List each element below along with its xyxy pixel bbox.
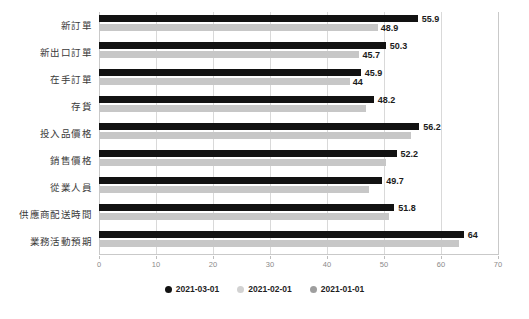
- bar-group: 業務活動預期64: [99, 228, 498, 255]
- bar-2021-03-01: 45.9: [99, 69, 361, 76]
- legend-swatch-icon: [310, 286, 317, 293]
- x-tick-label: 60: [437, 261, 445, 269]
- bar-value-label: 56.2: [423, 122, 441, 131]
- bar-fill: [99, 177, 382, 184]
- legend-item[interactable]: 2021-03-01: [165, 285, 219, 294]
- bar-2021-03-01: 48.2: [99, 96, 374, 103]
- bar-2021-03-01: 52.2: [99, 150, 397, 157]
- bar-fill: [99, 51, 359, 58]
- legend-item[interactable]: 2021-01-01: [310, 285, 364, 294]
- bar-fill: [99, 69, 361, 76]
- x-tick-label: 50: [380, 261, 388, 269]
- x-tick: [213, 256, 214, 259]
- category-label: 存貨: [71, 102, 92, 112]
- bar-2021-02-01: [99, 159, 386, 166]
- bar-2021-02-01: 45.7: [99, 51, 359, 58]
- category-label: 投入品價格: [40, 129, 92, 139]
- bar-2021-03-01: 55.9: [99, 15, 418, 22]
- bar-value-label: 55.9: [422, 14, 440, 23]
- bar-2021-03-01: 51.8: [99, 204, 394, 211]
- category-label: 銷售價格: [50, 156, 92, 166]
- category-label: 新出口訂單: [40, 48, 92, 58]
- bar-2021-02-01: 44: [99, 78, 350, 85]
- bar-group: 存貨48.2: [99, 93, 498, 120]
- bar-fill: [99, 132, 411, 139]
- category-label: 供應商配送時間: [19, 210, 92, 220]
- x-tick: [327, 256, 328, 259]
- bar-fill: [99, 42, 386, 49]
- bar-fill: [99, 24, 378, 31]
- bar-value-label: 51.8: [398, 203, 416, 212]
- bar-group: 新訂單55.948.9: [99, 12, 498, 39]
- bar-fill: [99, 150, 397, 157]
- legend-swatch-icon: [165, 286, 172, 293]
- bar-value-label: 49.7: [386, 176, 404, 185]
- bar-2021-02-01: [99, 213, 389, 220]
- bar-group: 供應商配送時間51.8: [99, 201, 498, 228]
- x-tick: [498, 256, 499, 259]
- bar-2021-03-01: 56.2: [99, 123, 419, 130]
- bar-fill: [99, 204, 394, 211]
- bar-fill: [99, 159, 386, 166]
- x-tick-label: 30: [266, 261, 274, 269]
- x-tick-label: 20: [209, 261, 217, 269]
- x-tick-label: 70: [494, 261, 502, 269]
- bar-fill: [99, 240, 459, 247]
- gridline-70: [498, 12, 499, 255]
- bar-2021-02-01: [99, 105, 366, 112]
- bar-fill: [99, 213, 389, 220]
- x-tick: [441, 256, 442, 259]
- legend-label: 2021-02-01: [248, 285, 291, 294]
- x-tick-label: 10: [152, 261, 160, 269]
- bar-group: 新出口訂單50.345.7: [99, 39, 498, 66]
- plot-area: 新訂單55.948.9新出口訂單50.345.7在手訂單45.944存貨48.2…: [99, 12, 498, 255]
- category-label: 業務活動預期: [30, 237, 92, 247]
- bar-2021-03-01: 64: [99, 231, 464, 238]
- category-label: 新訂單: [61, 21, 92, 31]
- bar-value-label: 64: [468, 230, 478, 239]
- bar-fill: [99, 123, 419, 130]
- x-tick: [99, 256, 100, 259]
- bar-group: 投入品價格56.2: [99, 120, 498, 147]
- bar-fill: [99, 15, 418, 22]
- bar-2021-02-01: [99, 132, 411, 139]
- chart-legend: 2021-03-012021-02-012021-01-01: [0, 285, 529, 294]
- bar-fill: [99, 78, 350, 85]
- bar-fill: [99, 231, 464, 238]
- legend-swatch-icon: [237, 286, 244, 293]
- bar-value-label: 44: [353, 77, 363, 86]
- bar-2021-02-01: [99, 186, 369, 193]
- bar-value-label: 48.2: [378, 95, 396, 104]
- bar-2021-03-01: 49.7: [99, 177, 382, 184]
- legend-label: 2021-03-01: [176, 285, 219, 294]
- bar-value-label: 45.9: [365, 68, 383, 77]
- legend-label: 2021-01-01: [321, 285, 364, 294]
- x-axis: 010203040506070: [99, 256, 498, 272]
- bar-2021-02-01: 48.9: [99, 24, 378, 31]
- bar-value-label: 52.2: [401, 149, 419, 158]
- bar-value-label: 48.9: [381, 23, 399, 32]
- bar-2021-02-01: [99, 240, 459, 247]
- bar-fill: [99, 105, 366, 112]
- x-tick-label: 0: [97, 261, 101, 269]
- bar-chart: 新訂單55.948.9新出口訂單50.345.7在手訂單45.944存貨48.2…: [0, 0, 529, 319]
- category-label: 在手訂單: [50, 75, 92, 85]
- x-tick: [156, 256, 157, 259]
- legend-item[interactable]: 2021-02-01: [237, 285, 291, 294]
- bar-2021-03-01: 50.3: [99, 42, 386, 49]
- bar-group: 從業人員49.7: [99, 174, 498, 201]
- x-tick: [270, 256, 271, 259]
- bar-value-label: 50.3: [390, 41, 408, 50]
- bar-group: 在手訂單45.944: [99, 66, 498, 93]
- bar-group: 銷售價格52.2: [99, 147, 498, 174]
- bar-value-label: 45.7: [362, 50, 380, 59]
- x-tick: [384, 256, 385, 259]
- bar-fill: [99, 96, 374, 103]
- category-label: 從業人員: [50, 183, 92, 193]
- x-tick-label: 40: [323, 261, 331, 269]
- bar-fill: [99, 186, 369, 193]
